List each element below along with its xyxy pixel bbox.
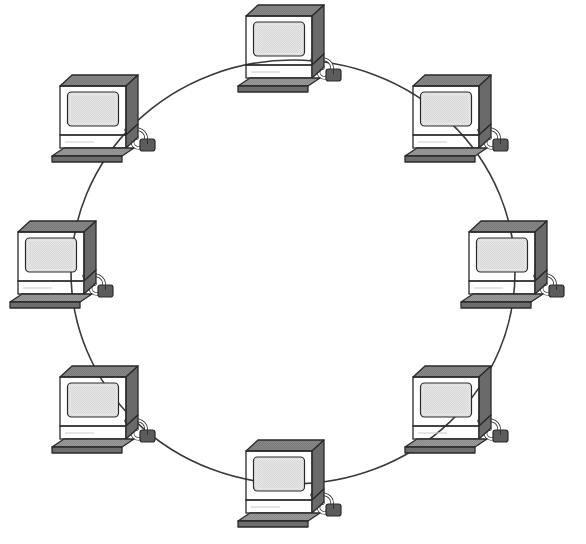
- ring-topology-diagram: [0, 0, 586, 544]
- computer-node-right: [457, 218, 575, 322]
- computer-node-top-left: [48, 72, 166, 176]
- computer-node-top-right: [401, 72, 519, 176]
- computer-node-left: [6, 218, 124, 322]
- computer-node-bottom: [234, 437, 352, 541]
- computer-node-bottom-left: [48, 363, 166, 467]
- computer-node-bottom-right: [401, 363, 519, 467]
- computer-node-top: [234, 2, 352, 106]
